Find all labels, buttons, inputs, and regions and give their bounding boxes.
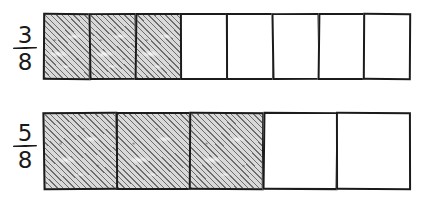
fraction-label-top: 3 8	[8, 24, 42, 73]
bar-cell-empty	[317, 13, 366, 80]
bar-cell-empty	[363, 13, 411, 80]
fraction-numerator-bottom: 5	[8, 122, 42, 144]
bar-cell-empty	[180, 13, 228, 80]
fraction-denominator-top: 8	[8, 51, 42, 73]
bar-cell-shaded	[88, 13, 137, 80]
fraction-bar-top	[43, 13, 411, 80]
bar-cell-empty	[336, 112, 411, 190]
bar-cell-empty	[271, 13, 320, 80]
bar-cell-empty	[262, 112, 338, 190]
fraction-bar-line-bottom	[13, 145, 37, 147]
fraction-bar-line-top	[13, 47, 37, 49]
fraction-denominator-bottom: 8	[8, 149, 42, 171]
bar-cell-shaded	[43, 13, 91, 80]
fraction-numerator-top: 3	[8, 24, 42, 46]
bar-cell-empty	[226, 13, 274, 80]
bar-cell-shaded	[116, 112, 191, 190]
fraction-bar-bottom	[43, 112, 411, 190]
bar-cell-shaded	[189, 112, 265, 190]
bar-cell-shaded	[42, 112, 118, 190]
fraction-label-bottom: 5 8	[8, 122, 42, 171]
fraction-bar-diagram: 3 8 5 8	[0, 0, 427, 212]
bar-cell-shaded	[134, 13, 183, 80]
